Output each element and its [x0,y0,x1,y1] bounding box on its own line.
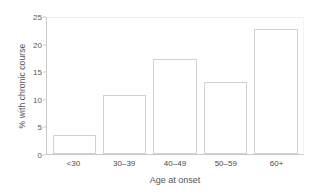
y-axis-title: % with chronic course [14,17,30,155]
x-axis-title: Age at onset [46,175,304,185]
y-axis-tick-label: 5 [38,123,42,132]
bar[interactable] [204,82,247,154]
x-axis-tick-label: 40–49 [150,159,201,168]
x-axis-tick-label: <30 [48,159,99,168]
plot-area [46,17,304,155]
y-axis-tick-label: 0 [38,151,42,160]
bar-slot [200,18,250,154]
bar-slot [251,18,301,154]
y-axis-tick-label: 25 [33,13,42,22]
bar-slot [99,18,149,154]
bar[interactable] [254,29,297,154]
bar[interactable] [153,59,196,154]
bar-group [47,18,303,154]
y-axis-tick-label: 20 [33,40,42,49]
bar[interactable] [103,95,146,154]
x-axis-tick-label: 50–59 [200,159,251,168]
bar[interactable] [53,135,96,154]
x-axis-tick-label: 30–39 [99,159,150,168]
x-axis-tick-group: <3030–3940–4950–5960+ [46,159,304,168]
x-axis-tick-label: 60+ [251,159,302,168]
bar-slot [150,18,200,154]
y-axis-tick-label: 10 [33,95,42,104]
y-axis-tick-label: 15 [33,68,42,77]
bar-slot [49,18,99,154]
bar-chart-figure: % with chronic course 0510152025 <3030–3… [0,0,311,196]
